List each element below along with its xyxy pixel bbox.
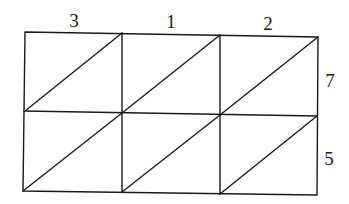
top-digit-1: 3	[69, 11, 79, 30]
right-digit-2: 5	[324, 149, 334, 168]
cell-diagonal	[25, 33, 122, 111]
row-divider	[24, 111, 317, 116]
cell-diagonal	[122, 115, 220, 192]
right-digit-1: 7	[325, 71, 335, 90]
cell-diagonal	[220, 37, 318, 115]
cell-diagonal	[122, 35, 220, 113]
cell-diagonal	[220, 116, 317, 194]
cell-diagonal	[23, 113, 122, 191]
top-digit-3: 2	[263, 14, 273, 33]
top-digit-2: 1	[166, 12, 176, 31]
lattice-diagram: 3 1 2 7 5	[0, 0, 349, 204]
